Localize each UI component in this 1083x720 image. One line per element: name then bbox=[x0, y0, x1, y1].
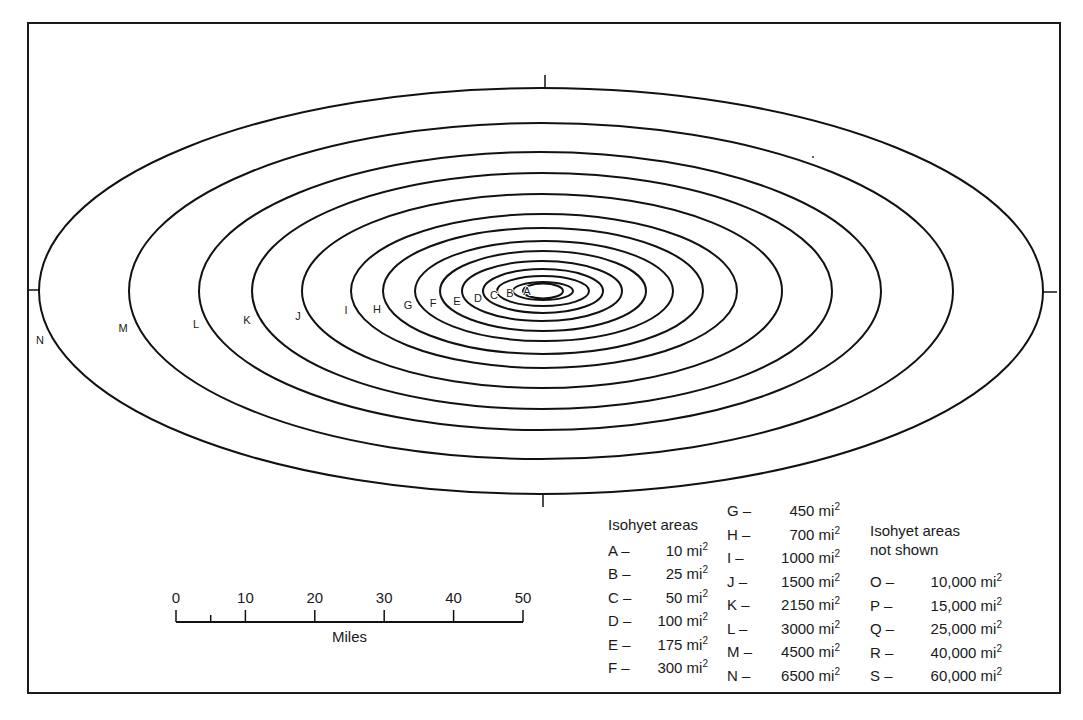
legend-not-shown-column: Isohyet areas not shown O –10,000 mi2P –… bbox=[870, 521, 1002, 688]
legend-row: M –4500 mi2 bbox=[727, 640, 840, 664]
isohyet-label-f: F bbox=[430, 297, 437, 309]
legend-key: M – bbox=[727, 640, 757, 664]
legend-key: O – bbox=[870, 570, 900, 594]
legend-list: A –10 mi2B –25 mi2C –50 mi2D –100 mi2E –… bbox=[608, 539, 708, 680]
isohyet-label-b: B bbox=[506, 287, 513, 299]
isohyet-label-i: I bbox=[344, 304, 347, 316]
legend-row: B –25 mi2 bbox=[608, 562, 708, 586]
legend-row: A –10 mi2 bbox=[608, 539, 708, 563]
scale-bar-tick-label: 30 bbox=[376, 589, 393, 606]
scale-bar-tick-label: 10 bbox=[237, 589, 254, 606]
legend-key: S – bbox=[870, 664, 900, 688]
legend-value: 175 mi2 bbox=[638, 633, 708, 657]
legend-row: I –1000 mi2 bbox=[727, 546, 840, 570]
legend-key: L – bbox=[727, 617, 757, 641]
legend-key: F – bbox=[608, 656, 638, 680]
legend-key: E – bbox=[608, 633, 638, 657]
legend-value: 50 mi2 bbox=[638, 586, 708, 610]
scale-bar-tick-label: 50 bbox=[515, 589, 532, 606]
legend-title: Isohyet areas bbox=[608, 513, 708, 537]
legend-row: E –175 mi2 bbox=[608, 633, 708, 657]
isohyet-label-k: K bbox=[243, 314, 251, 326]
legend-row: R –40,000 mi2 bbox=[870, 641, 1002, 665]
legend-title-line: not shown bbox=[870, 540, 1002, 559]
scale-bar-tick-label: 20 bbox=[306, 589, 323, 606]
legend-key: A – bbox=[608, 539, 638, 563]
legend-value: 3000 mi2 bbox=[757, 617, 840, 641]
legend-key: K – bbox=[727, 593, 757, 617]
legend-key: G – bbox=[727, 499, 757, 523]
legend-row: Q –25,000 mi2 bbox=[870, 617, 1002, 641]
isohyet-label-l: L bbox=[193, 318, 199, 330]
legend-key: P – bbox=[870, 594, 900, 618]
legend-row: O –10,000 mi2 bbox=[870, 570, 1002, 594]
isohyet-label-d: D bbox=[474, 292, 482, 304]
scale-bar-tick-label: 0 bbox=[172, 589, 180, 606]
legend-value: 4500 mi2 bbox=[757, 640, 840, 664]
legend-value: 25,000 mi2 bbox=[900, 617, 1002, 641]
isohyet-k bbox=[252, 173, 832, 409]
isohyet-labels: ABCDEFGHIJKLMN bbox=[36, 285, 531, 346]
legend-row: F –300 mi2 bbox=[608, 656, 708, 680]
legend-value: 450 mi2 bbox=[757, 499, 840, 523]
isohyet-label-h: H bbox=[373, 303, 381, 315]
legend-row: J –1500 mi2 bbox=[727, 570, 840, 594]
legend-value: 100 mi2 bbox=[638, 609, 708, 633]
isohyet-i bbox=[351, 214, 737, 368]
legend-key: H – bbox=[727, 523, 757, 547]
legend-row: P –15,000 mi2 bbox=[870, 594, 1002, 618]
legend-row: N –6500 mi2 bbox=[727, 664, 840, 688]
legend-value: 300 mi2 bbox=[638, 656, 708, 680]
legend-row: S –60,000 mi2 bbox=[870, 664, 1002, 688]
legend-row: K –2150 mi2 bbox=[727, 593, 840, 617]
legend-value: 2150 mi2 bbox=[757, 593, 840, 617]
legend-value: 10,000 mi2 bbox=[900, 570, 1002, 594]
scale-bar: 01020304050Miles bbox=[172, 589, 532, 645]
scale-bar-tick-label: 40 bbox=[445, 589, 462, 606]
legend-title-line: Isohyet areas bbox=[870, 521, 1002, 540]
isohyet-contours bbox=[39, 88, 1043, 494]
isohyet-label-j: J bbox=[295, 310, 301, 322]
isohyet-f bbox=[440, 251, 646, 331]
legend-value: 60,000 mi2 bbox=[900, 664, 1002, 688]
isohyet-g bbox=[415, 241, 673, 341]
isohyet-label-m: M bbox=[118, 322, 127, 334]
legend-key: Q – bbox=[870, 617, 900, 641]
legend-row: D –100 mi2 bbox=[608, 609, 708, 633]
legend-key: N – bbox=[727, 664, 757, 688]
legend-key: B – bbox=[608, 562, 638, 586]
isohyet-label-c: C bbox=[490, 289, 498, 301]
legend-key: D – bbox=[608, 609, 638, 633]
legend-value: 10 mi2 bbox=[638, 539, 708, 563]
legend-not-shown-title: Isohyet areas not shown bbox=[870, 521, 1002, 559]
legend-value: 1000 mi2 bbox=[757, 546, 840, 570]
legend-shown-column-1: Isohyet areas A –10 mi2B –25 mi2C –50 mi… bbox=[608, 513, 708, 680]
legend-value: 1500 mi2 bbox=[757, 570, 840, 594]
axis-ticks bbox=[28, 75, 1057, 507]
legend-value: 25 mi2 bbox=[638, 562, 708, 586]
legend-row: L –3000 mi2 bbox=[727, 617, 840, 641]
legend-value: 700 mi2 bbox=[757, 523, 840, 547]
legend-key: I – bbox=[727, 546, 757, 570]
isohyet-label-e: E bbox=[453, 295, 460, 307]
legend-value: 40,000 mi2 bbox=[900, 641, 1002, 665]
legend-key: J – bbox=[727, 570, 757, 594]
legend-list: O –10,000 mi2P –15,000 mi2Q –25,000 mi2R… bbox=[870, 570, 1002, 688]
legend-row: G –450 mi2 bbox=[727, 499, 840, 523]
legend-value: 15,000 mi2 bbox=[900, 594, 1002, 618]
legend-row: H –700 mi2 bbox=[727, 523, 840, 547]
isohyet-label-a: A bbox=[523, 285, 531, 297]
legend-key: C – bbox=[608, 586, 638, 610]
isohyet-label-g: G bbox=[404, 299, 413, 311]
speck bbox=[812, 156, 814, 158]
legend-row: C –50 mi2 bbox=[608, 586, 708, 610]
legend-shown-column-2: G –450 mi2H –700 mi2I –1000 mi2J –1500 m… bbox=[727, 499, 840, 687]
legend-list: G –450 mi2H –700 mi2I –1000 mi2J –1500 m… bbox=[727, 499, 840, 687]
legend-value: 6500 mi2 bbox=[757, 664, 840, 688]
isohyet-n bbox=[39, 88, 1043, 494]
isohyet-label-n: N bbox=[36, 334, 44, 346]
isohyet-h bbox=[383, 228, 703, 354]
isohyet-j bbox=[302, 194, 782, 388]
scale-bar-unit-label: Miles bbox=[332, 628, 367, 645]
legend-key: R – bbox=[870, 641, 900, 665]
